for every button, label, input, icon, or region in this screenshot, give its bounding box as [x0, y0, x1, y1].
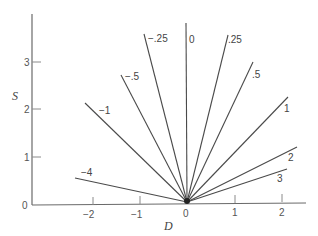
- y-tick-label-0: 0: [22, 200, 28, 211]
- ray-slope-neg0-5: [121, 75, 187, 202]
- ray-slope-0-5: [187, 62, 253, 202]
- y-tick-label-2: 2: [24, 104, 30, 115]
- ray-slope-neg4: [75, 178, 187, 202]
- ray-label-0-5: .5: [252, 69, 261, 80]
- origin-dot-icon: [184, 198, 190, 204]
- ray-slope-3: [187, 169, 287, 202]
- ray-slope-0-25: [187, 35, 228, 202]
- y-axis-label: S: [12, 89, 18, 103]
- ray-label-neg0-5: −.5: [125, 71, 140, 82]
- ray-label-3: 3: [277, 173, 283, 184]
- x-axis-label: D: [163, 219, 173, 233]
- ray-slope-neg1: [85, 103, 187, 202]
- ray-label-neg1: −1: [99, 105, 111, 116]
- ray-label-0: 0: [189, 34, 195, 45]
- ray-slope-1: [187, 97, 288, 202]
- diagram-canvas: 0 1 2 3 S −2 −1 0 1 2 D −4 −1 −.5 −.25 0…: [0, 0, 318, 236]
- y-tick-label-1: 1: [24, 152, 30, 163]
- ray-slope-0: [186, 23, 187, 202]
- x-tick-label-neg2: −2: [83, 209, 95, 220]
- ray-label-neg4: −4: [81, 167, 93, 178]
- ray-fan-diagram: 0 1 2 3 S −2 −1 0 1 2 D −4 −1 −.5 −.25 0…: [0, 0, 318, 236]
- y-tick-label-3: 3: [24, 57, 30, 68]
- x-axis: [32, 203, 306, 205]
- ray-label-2: 2: [288, 152, 294, 163]
- ray-label-0-25: .25: [228, 34, 242, 45]
- x-tick-label-0: 0: [183, 208, 189, 219]
- ray-label-1: 1: [284, 103, 290, 114]
- ray-label-neg0-25: −.25: [148, 33, 168, 44]
- x-tick-label-2: 2: [279, 207, 285, 218]
- x-tick-label-1: 1: [232, 207, 238, 218]
- ray-slope-neg0-25: [144, 34, 187, 202]
- x-tick-label-neg1: −1: [131, 209, 143, 220]
